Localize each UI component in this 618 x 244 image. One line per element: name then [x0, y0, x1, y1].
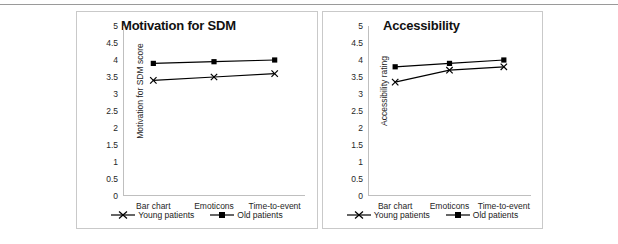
x-marker-icon: [347, 210, 371, 220]
y-tick-label: 3: [113, 90, 118, 99]
y-tick-label: 1: [358, 158, 363, 167]
y-tick-label: 5: [113, 22, 118, 31]
data-point-marker: [501, 57, 506, 62]
y-tick-label: 1.5: [106, 141, 118, 150]
data-point-marker: [151, 61, 156, 66]
legend-label-young: Young patients: [374, 210, 430, 220]
y-tick-label: 3.5: [351, 73, 363, 82]
legend-item-young: Young patients: [111, 210, 194, 220]
legend-label-old: Old patients: [237, 210, 282, 220]
series-old-patients: [151, 57, 278, 66]
y-tick-label: 2: [358, 124, 363, 133]
y-tick-label: 4: [113, 56, 118, 65]
y-tick-label: 1: [113, 158, 118, 167]
legend-item-old: Old patients: [446, 210, 518, 220]
charts-row: Motivation for SDM Motivation for SDM sc…: [0, 11, 618, 233]
plot-area: Accessibility rating 00.511.522.533.544.…: [368, 26, 531, 196]
y-tick-label: 0: [358, 192, 363, 201]
y-tick-label: 2.5: [351, 107, 363, 116]
y-tick-label: 1.5: [351, 141, 363, 150]
chart-panel-motivation-for-sdm: Motivation for SDM Motivation for SDM sc…: [76, 11, 318, 229]
legend-label-young: Young patients: [138, 210, 194, 220]
legend-label-old: Old patients: [473, 210, 518, 220]
legend: Young patients Old patients: [323, 210, 542, 220]
x-marker-icon: [111, 210, 135, 220]
series-young-patients: [392, 64, 507, 86]
y-tick-label: 3: [358, 90, 363, 99]
square-marker-icon: [446, 210, 470, 220]
y-tick-label: 2.5: [106, 107, 118, 116]
y-tick-label: 4: [358, 56, 363, 65]
series-layer: [368, 26, 531, 196]
data-point-marker: [211, 59, 216, 64]
square-marker-icon: [210, 210, 234, 220]
legend-item-young: Young patients: [347, 210, 430, 220]
series-layer: [123, 26, 305, 196]
top-horizontal-rule: [0, 4, 618, 5]
y-tick-label: 0.5: [351, 175, 363, 184]
plot-area: Motivation for SDM score 00.511.522.533.…: [123, 26, 305, 196]
y-tick-label: 0.5: [106, 175, 118, 184]
y-tick-label: 0: [113, 192, 118, 201]
chart-panel-accessibility: Accessibility Accessibility rating 00.51…: [322, 11, 543, 229]
figure-page: Motivation for SDM Motivation for SDM sc…: [0, 0, 618, 244]
y-tick-label: 4.5: [351, 39, 363, 48]
data-point-marker: [393, 64, 398, 69]
y-tick-label: 5: [358, 22, 363, 31]
y-tick-label: 2: [113, 124, 118, 133]
series-young-patients: [150, 70, 278, 83]
data-point-marker: [272, 57, 277, 62]
data-point-marker: [447, 61, 452, 66]
legend-item-old: Old patients: [210, 210, 282, 220]
legend: Young patients Old patients: [77, 210, 317, 220]
y-tick-label: 4.5: [106, 39, 118, 48]
y-tick-label: 3.5: [106, 73, 118, 82]
